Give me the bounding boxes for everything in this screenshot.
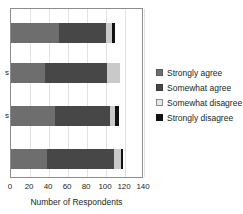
legend-swatch-icon [156,84,163,91]
bar-segment [47,149,114,169]
x-tick-label: 0 [8,181,12,192]
bar-segment [11,106,55,126]
x-tick-label: 80 [82,181,91,192]
bar-segment [121,149,123,169]
bar-segment [59,23,107,43]
legend-swatch-icon [156,99,163,106]
bar-segment [11,63,45,83]
legend-item[interactable]: Strongly disagree [156,111,243,124]
x-axis-tick-labels: 020406080100120140 [0,181,243,193]
x-axis-title: Number of Respondents [10,197,143,208]
x-tick-label: 120 [117,181,130,192]
gridline [125,9,126,177]
x-tick-label: 60 [63,181,72,192]
bar-segment [107,63,120,83]
category-label: s [0,68,9,78]
plot-area [10,8,143,178]
category-label: s [0,111,9,121]
bar-row [11,23,115,43]
legend-item-label: Somewhat disagree [167,98,242,108]
legend-item[interactable]: Somewhat agree [156,81,243,94]
legend-item-label: Somewhat agree [167,83,231,93]
stacked-bar-chart: ss 020406080100120140 Number of Responde… [0,0,243,214]
bar-segment [112,23,116,43]
bar-segment [114,149,122,169]
bar-segment [55,106,110,126]
x-tick-label: 140 [136,181,149,192]
legend-swatch-icon [156,114,163,121]
legend-swatch-icon [156,69,163,76]
legend-item[interactable]: Somewhat disagree [156,96,243,109]
bar-segment [11,23,59,43]
bar-row [11,63,120,83]
gridline [144,9,145,177]
x-tick-label: 100 [98,181,111,192]
bar-segment [45,63,107,83]
bar-segment [115,106,119,126]
bar-row [11,149,123,169]
legend: Strongly agreeSomewhat agreeSomewhat dis… [156,66,243,126]
bar-row [11,106,119,126]
legend-item-label: Strongly disagree [167,113,233,123]
bar-segment [11,149,47,169]
legend-item[interactable]: Strongly agree [156,66,243,79]
x-tick-label: 40 [44,181,53,192]
legend-item-label: Strongly agree [167,68,222,78]
x-tick-label: 20 [25,181,34,192]
